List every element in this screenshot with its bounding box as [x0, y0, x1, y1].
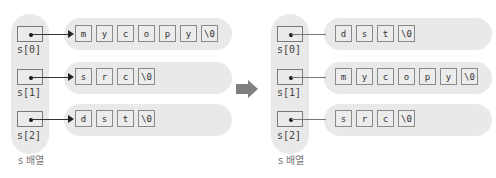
pointer-label: s[1] — [17, 87, 47, 98]
array-caption: s 배열 — [18, 152, 44, 167]
array-caption: s 배열 — [278, 152, 304, 167]
char-cells: s r c \0 — [75, 68, 155, 85]
pointer-line — [31, 34, 68, 35]
char-cells: d s t \0 — [75, 110, 155, 127]
char-cell: \0 — [398, 25, 415, 42]
char-cell: s — [75, 68, 92, 85]
char-cells: m y c o p y \0 — [75, 25, 218, 42]
pointer-label: s[2] — [17, 130, 47, 141]
char-cell: c — [377, 110, 394, 127]
pointer-label: s[0] — [17, 44, 47, 55]
char-cell: \0 — [201, 25, 218, 42]
char-cells: m y c o p y \0 — [335, 68, 478, 85]
char-cell: y — [440, 68, 457, 85]
char-cell: c — [117, 25, 134, 42]
char-cell: s — [96, 110, 113, 127]
char-cell: s — [335, 110, 352, 127]
char-cells: s r c \0 — [335, 110, 415, 127]
char-cell: \0 — [461, 68, 478, 85]
char-cells: d s t \0 — [335, 25, 415, 42]
char-cell: p — [419, 68, 436, 85]
after-diagram: s[0] d s t \0 s[1] m y c o p y \0 s[2] s… — [260, 0, 496, 178]
char-cell: d — [75, 110, 92, 127]
char-cell: y — [96, 25, 113, 42]
char-cell: \0 — [138, 68, 155, 85]
pointer-label: s[2] — [277, 130, 307, 141]
pointer-line — [291, 77, 326, 78]
char-cell: r — [356, 110, 373, 127]
arrowhead-icon — [68, 73, 74, 81]
pointer-line — [291, 34, 326, 35]
char-cell: s — [356, 25, 373, 42]
char-cell: r — [96, 68, 113, 85]
char-cell: y — [356, 68, 373, 85]
char-cell: t — [117, 110, 134, 127]
char-cell: \0 — [398, 110, 415, 127]
pointer-line — [31, 119, 68, 120]
char-cell: o — [398, 68, 415, 85]
pointer-line — [31, 77, 68, 78]
before-diagram: s[0] m y c o p y \0 s[1] s r c \0 s[2] d… — [0, 0, 248, 178]
char-cell: c — [377, 68, 394, 85]
char-cell: c — [117, 68, 134, 85]
right-arrow-icon — [236, 80, 258, 98]
pointer-label: s[0] — [277, 44, 307, 55]
arrowhead-icon — [68, 115, 74, 123]
char-cell: o — [138, 25, 155, 42]
pointer-line — [291, 119, 326, 120]
arrowhead-icon — [68, 30, 74, 38]
char-cell: p — [159, 25, 176, 42]
char-cell: m — [335, 68, 352, 85]
char-cell: y — [180, 25, 197, 42]
pointer-label: s[1] — [277, 87, 307, 98]
char-cell: t — [377, 25, 394, 42]
char-cell: m — [75, 25, 92, 42]
char-cell: \0 — [138, 110, 155, 127]
char-cell: d — [335, 25, 352, 42]
